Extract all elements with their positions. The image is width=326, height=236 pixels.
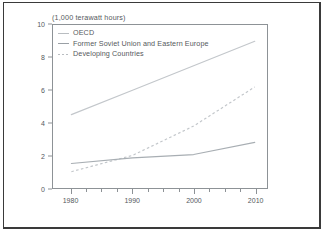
legend-label-fsu: Former Soviet Union and Eastern Europe <box>73 39 209 50</box>
x-tick-mark-minor <box>148 189 149 192</box>
legend-item-fsu: Former Soviet Union and Eastern Europe <box>58 39 209 50</box>
legend-swatch-oecd <box>58 30 69 36</box>
x-tick-mark-minor <box>117 189 118 192</box>
legend-swatch-fsu <box>58 41 69 47</box>
y-tick-label: 8 <box>25 54 45 61</box>
legend-label-developing: Developing Countries <box>73 49 144 60</box>
y-tick-label: 6 <box>25 87 45 94</box>
series-line-developing <box>71 87 254 172</box>
x-tick-label: 2000 <box>179 197 209 204</box>
y-tick-label: 4 <box>25 120 45 127</box>
chart-figure: (1,000 terawatt hours) 0246810 198019902… <box>0 0 326 236</box>
x-tick-label: 1990 <box>117 197 147 204</box>
x-tick-mark-minor <box>86 189 87 192</box>
y-tick-label: 2 <box>25 153 45 160</box>
legend-label-oecd: OECD <box>73 28 94 39</box>
x-tick-mark-minor <box>179 189 180 192</box>
y-tick-label: 0 <box>25 186 45 193</box>
x-tick-mark-major <box>256 189 257 194</box>
y-tick-label: 10 <box>25 21 45 28</box>
legend-swatch-developing <box>58 51 69 57</box>
x-tick-mark-major <box>71 189 72 194</box>
x-tick-mark-minor <box>240 189 241 192</box>
x-tick-mark-minor <box>209 189 210 192</box>
x-tick-label: 2010 <box>241 197 271 204</box>
x-tick-mark-minor <box>101 189 102 192</box>
legend-item-oecd: OECD <box>58 28 209 39</box>
x-tick-mark-minor <box>163 189 164 192</box>
x-tick-mark-major <box>132 189 133 194</box>
x-tick-mark-major <box>194 189 195 194</box>
chart-title: (1,000 terawatt hours) <box>52 13 126 22</box>
legend-item-developing: Developing Countries <box>58 49 209 60</box>
x-tick-label: 1980 <box>56 197 86 204</box>
series-line-fsu <box>71 142 254 163</box>
x-tick-mark-minor <box>225 189 226 192</box>
chart-legend: OECD Former Soviet Union and Eastern Eur… <box>58 28 209 60</box>
